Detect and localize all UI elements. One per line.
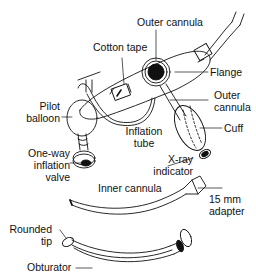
label-outer-cannula-top: Outer cannula — [137, 17, 203, 28]
leader-lines — [60, 30, 222, 268]
one-way-inflation-valve — [73, 151, 95, 168]
outer-cannula-shaft — [160, 84, 186, 120]
flange — [80, 51, 210, 119]
label-adapter-line1: 15 mm — [209, 194, 241, 205]
label-pilot-balloon-line2: balloon — [18, 113, 60, 124]
outer-cannula-opening — [142, 58, 170, 86]
label-one-way-line3: valve — [20, 172, 70, 183]
label-inflation-tube-line1: Inflation — [120, 126, 168, 137]
label-one-way-line2: inflation — [20, 160, 70, 171]
label-rounded-tip-line2: tip — [4, 236, 52, 247]
obturator — [61, 228, 194, 262]
label-xray-line1: X-ray — [150, 154, 193, 165]
label-outer-cannula-line1: Outer — [214, 90, 240, 101]
label-one-way-line1: One-way — [20, 148, 70, 159]
label-inner-cannula: Inner cannula — [98, 183, 162, 194]
label-xray-line2: indicator — [140, 166, 193, 177]
label-adapter-line2: adapter — [209, 206, 245, 217]
label-pilot-balloon-line1: Pilot — [18, 101, 60, 112]
diagram-canvas: Outer cannula Cotton tape Flange Pilot b… — [0, 0, 256, 275]
label-inflation-tube-line2: tube — [120, 138, 168, 149]
label-outer-cannula-line2: cannula — [214, 102, 251, 113]
label-cuff: Cuff — [224, 123, 243, 134]
cotton-tape-left — [110, 84, 131, 101]
label-flange: Flange — [210, 67, 242, 78]
label-cotton-tape: Cotton tape — [93, 42, 147, 53]
label-rounded-tip-line1: Rounded — [4, 224, 52, 235]
label-obturator: Obturator — [27, 262, 71, 273]
